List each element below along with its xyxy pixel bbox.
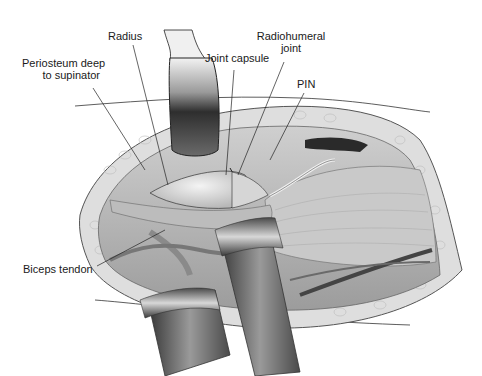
upper-retractor-handle [164, 30, 206, 60]
label-radiohumeral-line1: Radiohumeral [256, 30, 326, 42]
upper-retractor-blade [169, 58, 219, 156]
label-periosteum-line2: to supinator [22, 69, 100, 81]
label-periosteum-line1: Periosteum deep [22, 57, 100, 69]
label-radiohumeral-line2: joint [256, 42, 326, 54]
label-radiohumeral-joint: Radiohumeral joint [256, 30, 326, 54]
label-radius: Radius [108, 30, 142, 42]
label-periosteum: Periosteum deep to supinator [22, 57, 100, 81]
label-biceps-tendon: Biceps tendon [23, 263, 93, 275]
label-pin: PIN [297, 78, 315, 90]
